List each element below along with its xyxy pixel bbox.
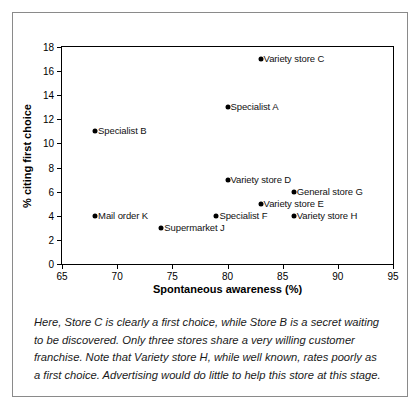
- x-tick-mark: [338, 264, 339, 269]
- y-tick-label: 16: [43, 66, 54, 77]
- x-axis-title: Spontaneous awareness (%): [61, 283, 394, 295]
- data-point-label: Variety store H: [297, 209, 358, 220]
- data-point-marker[interactable]: [225, 177, 230, 182]
- data-point-label: Variety store C: [264, 53, 325, 64]
- y-tick-label: 12: [43, 114, 54, 125]
- x-tick-mark: [393, 264, 394, 269]
- y-tick-label: 4: [48, 210, 54, 221]
- x-tick-mark: [172, 264, 173, 269]
- data-point-label: General store G: [297, 185, 363, 196]
- y-tick-label: 18: [43, 42, 54, 53]
- data-point-label: Variety store E: [264, 197, 324, 208]
- y-tick-mark: [57, 240, 62, 241]
- x-tick-label: 80: [222, 271, 233, 282]
- scatter-chart: % citing first choice 024681012141618 65…: [13, 13, 407, 296]
- y-tick-mark: [57, 47, 62, 48]
- figure-caption: Here, Store C is clearly a first choice,…: [34, 314, 386, 384]
- y-tick-mark: [57, 95, 62, 96]
- data-point-marker[interactable]: [93, 213, 98, 218]
- figure-panel: % citing first choice 024681012141618 65…: [12, 12, 408, 397]
- x-tick-mark: [62, 264, 63, 269]
- data-point-label: Specialist A: [231, 101, 279, 112]
- data-point-label: Supermarket J: [164, 221, 224, 232]
- data-point-marker[interactable]: [214, 213, 219, 218]
- y-tick-mark: [57, 168, 62, 169]
- y-tick-mark: [57, 192, 62, 193]
- y-tick-mark: [57, 119, 62, 120]
- data-point-marker[interactable]: [225, 105, 230, 110]
- y-tick-mark: [57, 143, 62, 144]
- y-tick-label: 6: [48, 186, 54, 197]
- x-tick-label: 75: [167, 271, 178, 282]
- data-point-label: Variety store D: [231, 173, 292, 184]
- y-tick-mark: [57, 216, 62, 217]
- x-tick-label: 70: [112, 271, 123, 282]
- x-tick-label: 95: [387, 271, 398, 282]
- y-tick-label: 10: [43, 138, 54, 149]
- data-point-marker[interactable]: [93, 129, 98, 134]
- data-point-label: Specialist F: [219, 209, 267, 220]
- x-tick-mark: [228, 264, 229, 269]
- y-axis-title-text: % citing first choice: [21, 104, 33, 208]
- x-tick-label: 85: [277, 271, 288, 282]
- y-tick-label: 14: [43, 90, 54, 101]
- data-point-marker[interactable]: [159, 225, 164, 230]
- data-point-marker[interactable]: [258, 57, 263, 62]
- x-tick-label: 65: [56, 271, 67, 282]
- data-point-label: Specialist B: [98, 125, 146, 136]
- y-tick-mark: [57, 71, 62, 72]
- data-point-marker[interactable]: [291, 213, 296, 218]
- y-tick-label: 0: [48, 259, 54, 270]
- y-tick-label: 8: [48, 162, 54, 173]
- plot-frame: 024681012141618 65707580859095 Specialis…: [61, 46, 394, 265]
- x-tick-mark: [283, 264, 284, 269]
- data-point-label: Mail order K: [98, 209, 148, 220]
- x-tick-mark: [117, 264, 118, 269]
- data-point-marker[interactable]: [258, 201, 263, 206]
- y-axis-title: % citing first choice: [19, 46, 35, 265]
- x-tick-label: 90: [332, 271, 343, 282]
- y-tick-label: 2: [48, 234, 54, 245]
- data-point-marker[interactable]: [291, 189, 296, 194]
